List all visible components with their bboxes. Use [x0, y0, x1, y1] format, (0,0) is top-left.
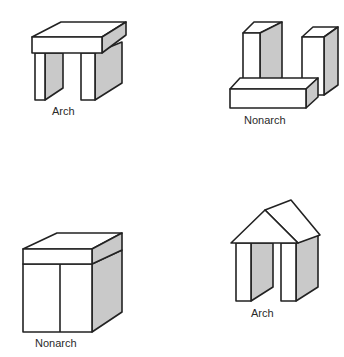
left-post-front [236, 243, 251, 301]
right-post-front [81, 53, 95, 100]
left-post-side [251, 243, 273, 301]
slab-front [230, 89, 306, 108]
left-post-side [45, 53, 63, 100]
right-post-side [296, 235, 318, 301]
figure-label-arch-1: Arch [52, 105, 75, 117]
block-figures-canvas [0, 0, 344, 357]
figure-label-arch-2: Arch [251, 307, 274, 319]
slab-top [230, 78, 318, 89]
figure-label-nonarch-1: Nonarch [244, 114, 286, 126]
left-post-front [35, 53, 45, 100]
right-post-front [281, 243, 296, 301]
posts-front [23, 264, 92, 332]
figure-label-nonarch-2: Nonarch [35, 337, 77, 349]
right-block-side [324, 27, 338, 95]
arch-figure-flat-lintel [32, 22, 126, 100]
nonarch-figure-touching-posts [23, 233, 122, 332]
lintel-front [32, 37, 102, 53]
nonarch-figure-fallen-lintel [230, 22, 338, 108]
lintel-front [23, 249, 92, 264]
arch-figure-wedge-roof [231, 200, 320, 301]
